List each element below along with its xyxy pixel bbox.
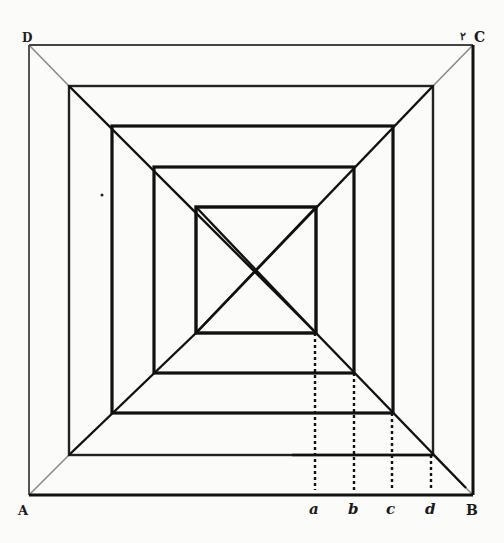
label-d: d — [425, 500, 436, 518]
main-diagonals — [69, 86, 466, 488]
nested-squares-diagram: D C A B a b c d ٢ — [0, 0, 504, 543]
label-B: B — [466, 502, 478, 518]
label-A: A — [17, 503, 29, 518]
label-b: b — [348, 500, 359, 518]
label-C: C — [474, 29, 485, 45]
label-c: c — [386, 500, 395, 518]
label-a: a — [309, 500, 319, 518]
label-D: D — [22, 31, 32, 45]
ink-speck — [101, 194, 104, 197]
small-glyph-near-C: ٢ — [460, 30, 466, 43]
